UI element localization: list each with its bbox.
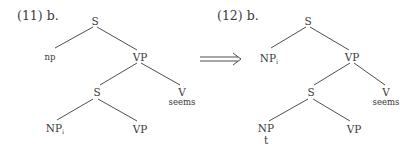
left-v-word: seems [169, 98, 196, 107]
left-root-s: S [91, 16, 98, 27]
right-v: V [382, 87, 390, 98]
right-vp2: VP [347, 124, 362, 135]
np-label: NP [46, 122, 62, 134]
left-np-i: NPi [46, 123, 64, 136]
double-right-arrow-icon [200, 52, 242, 66]
left-vp2: VP [133, 124, 148, 135]
left-v: V [178, 87, 186, 98]
right-np-trace: NP [258, 123, 274, 134]
example-label-12b: (12) b. [217, 10, 259, 23]
np-label: NP [260, 52, 276, 64]
left-s2: S [93, 87, 100, 98]
right-np-i: NPi [260, 53, 278, 66]
index-subscript: i [276, 58, 278, 66]
left-vp: VP [133, 52, 148, 63]
syntax-tree-diagram: (11) b. S np VP S V seems NPi VP (12) b.… [0, 0, 415, 151]
right-s2: S [307, 87, 314, 98]
trace-t: t [264, 135, 268, 146]
right-vp: VP [345, 52, 360, 63]
example-label-11b: (11) b. [17, 10, 59, 23]
right-root-s: S [304, 16, 311, 27]
left-np: np [45, 53, 56, 62]
right-v-word: seems [373, 98, 400, 107]
index-subscript: i [62, 128, 64, 136]
